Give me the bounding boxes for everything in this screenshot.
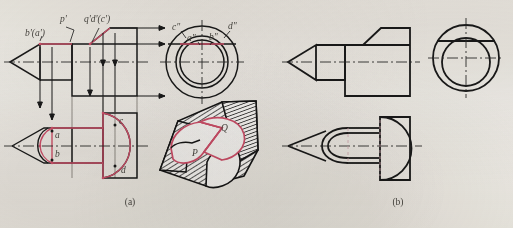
label-P: P xyxy=(191,148,198,158)
pt-c-top xyxy=(102,112,105,115)
label-d-double-prime: d" xyxy=(228,21,238,31)
dot-b xyxy=(51,159,54,162)
label-q-d-c-prime: q'd'(c') xyxy=(84,14,110,25)
label-d: d xyxy=(121,165,126,175)
pt-d-top xyxy=(102,177,105,180)
label-p-prime: p' xyxy=(59,14,68,24)
label-b-a-prime: b'(a') xyxy=(25,28,45,39)
pt-tip-top xyxy=(39,145,42,148)
pt-b-top xyxy=(51,162,54,165)
point-a-prime xyxy=(39,43,42,46)
dot-c xyxy=(114,124,117,127)
label-b-double-prime: b" xyxy=(209,32,219,42)
caption-b: (b) xyxy=(392,197,403,208)
label-a: a xyxy=(55,130,60,140)
label-Q: Q xyxy=(221,123,228,133)
technical-drawing-figure: b'(a') p' q'd'(c') xyxy=(0,0,513,228)
dot-a xyxy=(51,130,54,133)
label-a-double-prime: a" xyxy=(187,33,197,43)
pt-a-top xyxy=(51,127,54,130)
label-b: b xyxy=(55,149,60,159)
dot-d xyxy=(114,165,117,168)
label-c-double-prime: c" xyxy=(172,22,181,32)
caption-a: (a) xyxy=(125,197,136,208)
point-q-prime xyxy=(89,43,92,46)
